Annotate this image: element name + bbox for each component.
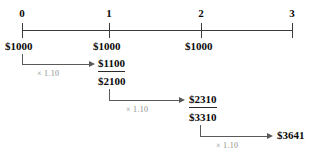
- axis-tick-1: [109, 23, 110, 38]
- step-2-growth-factor-label: × 1.10: [126, 106, 148, 114]
- step-3-elbow-horizontal: [200, 136, 268, 137]
- step-1-grown-value: $1100: [98, 58, 125, 72]
- step-2-arrow-head: [179, 97, 185, 103]
- step-1-arrow-head: [89, 61, 95, 67]
- step-1-running-total: $2100: [98, 76, 126, 87]
- step-1-growth-factor-label: × 1.10: [37, 70, 59, 78]
- cash-flow-label-period-0: $1000: [5, 41, 33, 52]
- timeline-diagram: 0 1 2 3 $1000 $1000 $1000 × 1.10 $1100 $…: [0, 0, 318, 162]
- step-2-running-total: $3310: [189, 112, 217, 123]
- step-3-growth-factor-label: × 1.10: [216, 142, 238, 150]
- cash-flow-label-period-1: $1000: [93, 41, 121, 52]
- period-label-1: 1: [99, 8, 119, 19]
- step-1-elbow-horizontal: [22, 64, 90, 65]
- final-future-value: $3641: [277, 130, 305, 141]
- period-label-2: 2: [191, 8, 211, 19]
- step-2-grown-value: $2310: [189, 94, 217, 108]
- timeline-axis: [22, 30, 292, 31]
- cash-flow-label-period-2: $1000: [185, 41, 213, 52]
- period-label-0: 0: [12, 8, 32, 19]
- step-3-arrow-head: [267, 133, 273, 139]
- axis-tick-2: [201, 23, 202, 38]
- axis-tick-3: [292, 23, 293, 38]
- step-2-elbow-horizontal: [109, 100, 180, 101]
- axis-tick-0: [22, 23, 23, 38]
- period-label-3: 3: [282, 8, 302, 19]
